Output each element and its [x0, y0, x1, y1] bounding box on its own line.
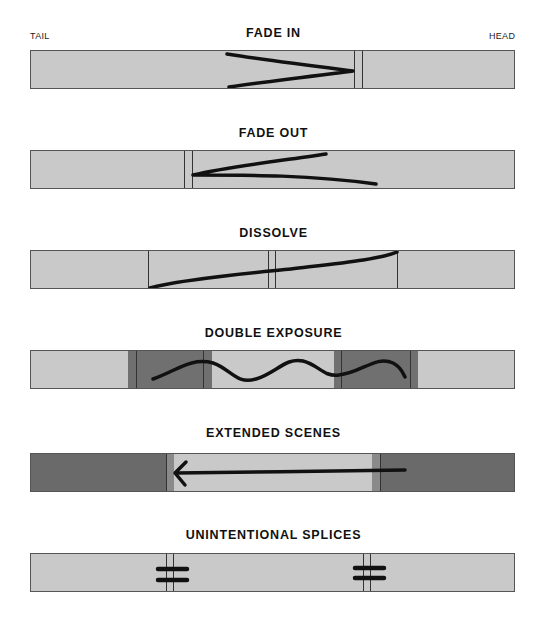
- diagram-title-unintentional-splices: UNINTENTIONAL SPLICES: [0, 528, 547, 542]
- diagram-title-double-exposure: DOUBLE EXPOSURE: [0, 326, 547, 340]
- diagram-title-fade-out: FADE OUT: [0, 126, 547, 140]
- film-strip-fade-out: [30, 150, 515, 189]
- diagram-title-fade-in: FADE IN: [0, 26, 547, 40]
- film-strip-double-exposure: [30, 350, 515, 389]
- film-strip-extended-scenes: [30, 453, 515, 492]
- film-strip-unintentional-splices: [30, 553, 515, 592]
- film-strip-dissolve: [30, 250, 515, 289]
- double-exposure-mark-icon: [31, 351, 515, 389]
- fade-out-mark-icon: [31, 151, 515, 189]
- diagram-title-extended-scenes: EXTENDED SCENES: [0, 426, 547, 440]
- dissolve-mark-icon: [31, 251, 515, 289]
- splice-marks-icon: [31, 554, 515, 592]
- diagram-title-dissolve: DISSOLVE: [0, 226, 547, 240]
- film-strip-fade-in: [30, 50, 515, 89]
- extended-arrow-icon: [31, 454, 515, 492]
- fade-in-mark-icon: [31, 51, 515, 89]
